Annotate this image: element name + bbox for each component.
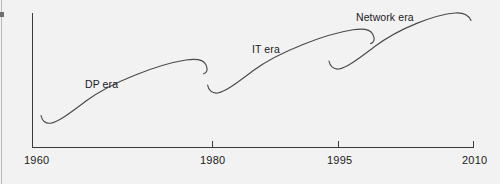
annotation-dp-era: DP era: [85, 79, 118, 90]
crop-artifact-mark: [0, 12, 4, 17]
x-tick-label-1980: 1980: [200, 155, 225, 166]
x-tick-label-2010: 2010: [462, 155, 487, 166]
chart-figure: 1960 1980 1995 2010 DP era IT era Networ…: [0, 0, 500, 184]
annotation-network-era: Network era: [356, 12, 414, 23]
curve-dp-era: [41, 59, 207, 123]
chart-canvas: [0, 0, 500, 184]
x-tick-label-1995: 1995: [327, 155, 352, 166]
annotation-it-era: IT era: [252, 44, 280, 55]
x-tick-label-1960: 1960: [24, 155, 49, 166]
curve-it-era: [208, 29, 375, 93]
